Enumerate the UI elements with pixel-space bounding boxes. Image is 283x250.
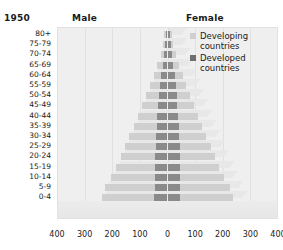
bar-segment-female-developing	[180, 164, 220, 171]
age-group-label: 25-29	[29, 142, 51, 150]
pyramid-row	[57, 194, 278, 203]
bar-segment-female-developed	[168, 164, 180, 171]
bar-segment-female-developed	[168, 184, 181, 191]
x-axis-tick-label: 400	[270, 230, 283, 239]
age-group-label: 20-24	[29, 152, 51, 160]
age-group-label: 65-69	[29, 61, 51, 69]
bar-segment-male-developing	[142, 102, 158, 109]
bar-segment-male-developed	[157, 123, 168, 130]
x-axis-tick-label: 100	[132, 230, 147, 239]
x-axis-tick-label: 100	[187, 230, 202, 239]
age-group-label: 80+	[35, 30, 51, 38]
age-group-label: 5-9	[39, 183, 51, 191]
age-group-label: 30-34	[29, 132, 51, 140]
legend-swatch-developing-icon	[190, 33, 196, 39]
bar-segment-female-developing	[172, 51, 176, 58]
age-group-label: 45-49	[29, 101, 51, 109]
population-axis: 4003002001000100200300400	[0, 230, 283, 244]
x-axis-tick-label: 0	[165, 230, 170, 239]
bar-segment-female-developed	[168, 102, 178, 109]
legend-item[interactable]: Developing countries	[190, 31, 270, 51]
age-group-axis: 80+75-7970-7465-6960-6455-5950-5445-4940…	[0, 27, 54, 219]
bar-segment-female-developed	[168, 133, 180, 140]
bar-segment-male-developing	[150, 82, 160, 89]
bar-segment-male-developed	[154, 194, 167, 201]
bar-segment-male-developed	[160, 82, 167, 89]
bar-segment-female-developing	[173, 62, 179, 69]
x-axis-tick-label: 300	[243, 230, 258, 239]
bar-segment-male-developed	[155, 184, 168, 191]
age-group-label: 55-59	[29, 81, 51, 89]
bar-segment-female-developing	[178, 113, 198, 120]
bar-segment-male-developing	[102, 194, 154, 201]
bar-segment-female-developing	[177, 102, 193, 109]
bar-segment-male-developing	[154, 72, 162, 79]
x-axis-tick-label: 200	[215, 230, 230, 239]
age-group-label: 15-19	[29, 163, 51, 171]
bar-segment-female-developing	[170, 31, 172, 38]
bar-segment-female-developed	[168, 194, 181, 201]
age-group-label: 60-64	[29, 71, 51, 79]
bar-segment-female-developed	[168, 113, 178, 120]
bar-segment-male-developing	[105, 184, 154, 191]
age-group-label: 35-39	[29, 122, 51, 130]
bar-segment-female-developing	[179, 133, 206, 140]
legend-label: Developed countries	[200, 53, 270, 73]
age-group-label: 50-54	[29, 91, 51, 99]
bar-segment-male-developing	[138, 113, 157, 120]
bar-segment-female-developing	[180, 174, 224, 181]
bar-segment-female-developed	[168, 123, 179, 130]
legend-item[interactable]: Developed countries	[190, 53, 270, 73]
bar-segment-male-developing	[111, 174, 155, 181]
bar-segment-male-developed	[158, 102, 167, 109]
bar-segment-male-developed	[157, 113, 167, 120]
bar-segment-male-developed	[156, 133, 167, 140]
bar-segment-male-developing	[134, 123, 157, 130]
plot-floor	[57, 201, 278, 219]
bar-segment-female-developing	[180, 184, 229, 191]
x-axis-tick-label: 300	[77, 230, 92, 239]
bar-segment-male-developing	[116, 164, 155, 171]
age-group-label: 70-74	[29, 50, 51, 58]
age-group-label: 40-44	[29, 112, 51, 120]
bar-segment-female-developing	[180, 194, 233, 201]
age-group-label: 75-79	[29, 40, 51, 48]
bar-segment-female-developed	[168, 153, 180, 160]
bar-segment-male-developed	[155, 174, 167, 181]
male-panel-label: Male	[72, 13, 97, 23]
bar-segment-female-developing	[175, 72, 183, 79]
age-group-label: 10-14	[29, 173, 51, 181]
legend: Developing countriesDeveloped countries	[190, 31, 270, 75]
x-axis-tick-label: 400	[49, 230, 64, 239]
bar-segment-female-developing	[180, 153, 215, 160]
bar-segment-female-developed	[168, 72, 175, 79]
bar-segment-female-developing	[179, 123, 202, 130]
bar-segment-female-developed	[168, 174, 180, 181]
population-pyramid-chart: 1950 Male Female 80+75-7970-7465-6960-64…	[0, 0, 283, 250]
age-group-label: 0-4	[39, 193, 51, 201]
legend-label: Developing countries	[200, 31, 270, 51]
x-axis-tick-label: 200	[105, 230, 120, 239]
bar-segment-male-developed	[155, 164, 167, 171]
chart-year-label: 1950	[4, 13, 30, 23]
bar-segment-female-developing	[176, 82, 186, 89]
bar-segment-female-developed	[168, 82, 176, 89]
bar-segment-male-developing	[121, 153, 156, 160]
legend-swatch-developed-icon	[190, 55, 196, 61]
bar-segment-male-developed	[155, 153, 167, 160]
bar-segment-male-developing	[129, 133, 156, 140]
female-panel-label: Female	[186, 13, 224, 23]
